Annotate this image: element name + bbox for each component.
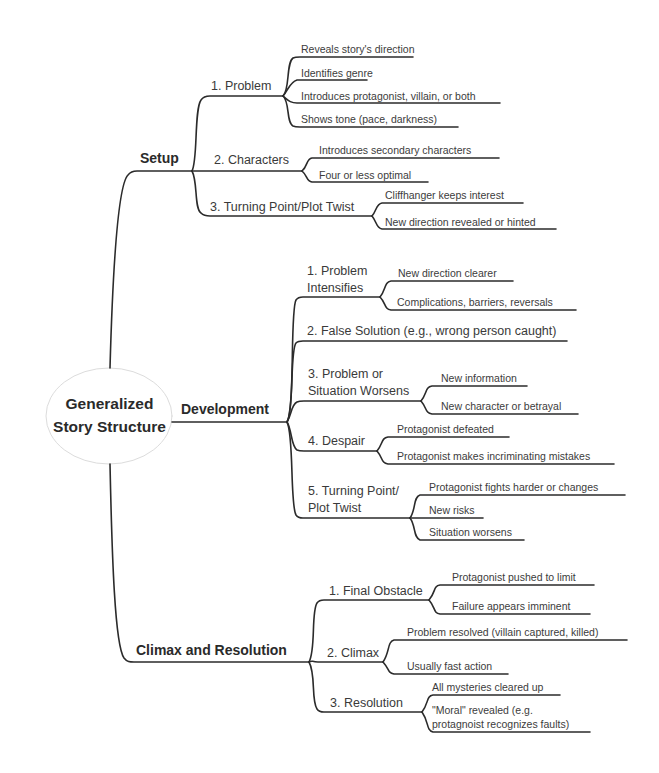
leaf-fights-harder: Protagonist fights harder or changes xyxy=(429,480,598,494)
leaf-failure-imminent: Failure appears imminent xyxy=(452,599,570,613)
leaf-problem-resolved: Problem resolved (villain captured, kill… xyxy=(407,625,598,639)
dev-problem-intensifies: 1. Problem Intensifies xyxy=(307,263,367,297)
root-title-line2: Story Structure xyxy=(47,415,172,438)
leaf-mysteries-cleared: All mysteries cleared up xyxy=(432,680,543,694)
leaf-pushed-to-limit: Protagonist pushed to limit xyxy=(452,570,576,584)
climax-resolution: 3. Resolution xyxy=(330,695,403,712)
branch-setup: Setup xyxy=(140,151,179,165)
leaf-situation-worsens: Situation worsens xyxy=(429,525,512,539)
leaf-identifies-genre: Identifies genre xyxy=(301,66,373,80)
leaf-secondary-characters: Introduces secondary characters xyxy=(319,143,471,157)
dev-false-solution: 2. False Solution (e.g., wrong person ca… xyxy=(307,323,556,340)
climax-climax: 2. Climax xyxy=(327,645,379,662)
leaf-moral-revealed: "Moral" revealed (e.g. protagnoist recog… xyxy=(432,703,569,731)
connector-root-setup xyxy=(110,171,192,368)
leaf-new-direction-clearer: New direction clearer xyxy=(398,266,497,280)
leaf-new-risks: New risks xyxy=(429,503,475,517)
root-title-line1: Generalized xyxy=(47,392,172,415)
leaf-incriminating-mistakes: Protagonist makes incriminating mistakes xyxy=(397,449,590,463)
dev-turning-point: 5. Turning Point/ Plot Twist xyxy=(308,483,399,517)
root-node: Generalized Story Structure xyxy=(47,392,172,438)
leaf-four-or-less: Four or less optimal xyxy=(319,168,411,182)
branch-climax-resolution: Climax and Resolution xyxy=(136,643,287,657)
leaf-introduces-protagonist: Introduces protagonist, villain, or both xyxy=(301,89,476,103)
setup-characters: 2. Characters xyxy=(214,152,289,169)
dev-problem-worsens: 3. Problem or Situation Worsens xyxy=(308,366,409,400)
leaf-new-information: New information xyxy=(441,371,517,385)
leaf-fast-action: Usually fast action xyxy=(407,659,492,673)
leaf-protagonist-defeated: Protagonist defeated xyxy=(397,422,494,436)
leaf-cliffhanger: Cliffhanger keeps interest xyxy=(385,188,504,202)
leaf-new-character-betrayal: New character or betrayal xyxy=(441,399,561,413)
branch-development: Development xyxy=(181,402,269,416)
setup-problem: 1. Problem xyxy=(211,78,271,95)
leaf-new-direction-revealed: New direction revealed or hinted xyxy=(385,215,536,229)
connector-root-climax xyxy=(110,464,309,662)
climax-final-obstacle: 1. Final Obstacle xyxy=(329,583,423,600)
dev-despair: 4. Despair xyxy=(308,433,365,450)
leaf-complications: Complications, barriers, reversals xyxy=(397,295,553,309)
setup-turning-point: 3. Turning Point/Plot Twist xyxy=(210,199,354,216)
leaf-reveals-direction: Reveals story's direction xyxy=(301,42,414,56)
leaf-shows-tone: Shows tone (pace, darkness) xyxy=(301,112,437,126)
